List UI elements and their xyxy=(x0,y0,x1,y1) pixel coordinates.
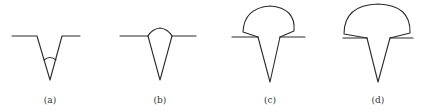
panel-a: (a) xyxy=(12,36,80,105)
panel-b-cap xyxy=(148,28,172,36)
panel-d-cap xyxy=(344,4,410,38)
panel-a-root-bead xyxy=(44,58,56,61)
panel-c: (c) xyxy=(232,6,305,105)
panel-d-groove xyxy=(367,38,390,82)
panel-a-label: (a) xyxy=(44,95,56,105)
panel-b-groove xyxy=(148,36,172,80)
weld-profile-figure: (a) (b) (c) (d) xyxy=(0,0,421,112)
panel-d-label: (d) xyxy=(372,95,385,105)
panel-b: (b) xyxy=(120,28,196,105)
panel-c-label: (c) xyxy=(264,95,276,105)
panel-c-groove xyxy=(258,37,280,82)
panel-c-cap xyxy=(243,6,294,37)
panel-d: (d) xyxy=(343,4,413,105)
panel-b-label: (b) xyxy=(154,95,167,105)
